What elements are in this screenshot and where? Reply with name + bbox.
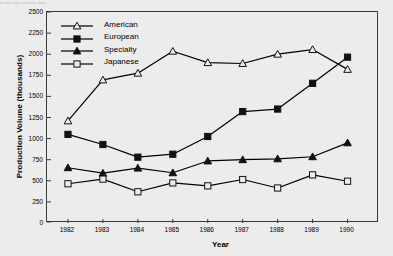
y-axis-tick: 0 (3, 219, 43, 226)
data-point (100, 141, 106, 147)
legend-label: American (94, 20, 138, 29)
y-axis-tick-labels: 02505007501000125015001750200022502500 (0, 11, 43, 222)
y-axis-tick: 1500 (3, 92, 43, 99)
data-point (275, 106, 281, 112)
series-line (68, 57, 348, 157)
x-axis-tick: 1990 (327, 226, 367, 233)
series-european (65, 54, 351, 160)
chart-figure: production volume data Production Volume… (0, 0, 393, 256)
data-point (135, 154, 141, 160)
y-axis-tick: 1250 (3, 113, 43, 120)
y-axis-tick: 250 (3, 197, 43, 204)
data-point (170, 151, 176, 157)
data-point (344, 54, 350, 60)
data-point (64, 164, 72, 171)
data-point (275, 185, 281, 191)
y-axis-tick: 2500 (3, 8, 43, 15)
data-point (65, 181, 71, 187)
legend-label: Japanese (94, 57, 139, 66)
x-axis-title: Year (0, 240, 393, 249)
legend: AmericanEuropeanSpecialtyJapanese (60, 18, 180, 68)
legend-item-european: European (60, 31, 180, 44)
data-point (134, 69, 142, 76)
data-point (134, 164, 142, 171)
legend-item-specialty: Specialty (60, 43, 180, 56)
legend-label: European (94, 32, 139, 41)
header-strip: production volume data (0, 0, 120, 5)
series-japanese (65, 172, 351, 195)
data-point (205, 183, 211, 189)
data-point (170, 180, 176, 186)
legend-symbol (60, 31, 94, 43)
data-point (240, 108, 246, 114)
legend-item-japanese: Japanese (60, 56, 180, 69)
legend-symbol (60, 43, 94, 55)
y-axis-tick: 1000 (3, 134, 43, 141)
legend-marker-icon (74, 61, 80, 67)
data-point (205, 133, 211, 139)
data-point (100, 176, 106, 182)
legend-symbol (60, 18, 94, 30)
data-point (309, 46, 317, 53)
y-axis-tick: 1750 (3, 71, 43, 78)
data-point (65, 131, 71, 137)
legend-symbol (60, 56, 94, 68)
legend-marker-icon (74, 36, 80, 42)
x-axis-tick-labels: 198219831984198519861987198819891990 (46, 226, 378, 238)
data-point (135, 189, 141, 195)
legend-label: Specialty (94, 45, 136, 54)
y-axis-tick: 500 (3, 176, 43, 183)
series-specialty (64, 139, 351, 176)
data-point (344, 66, 352, 73)
x-axis-title-text: Year (212, 240, 229, 249)
legend-item-american: American (60, 18, 180, 31)
data-point (344, 178, 350, 184)
data-point (240, 176, 246, 182)
y-axis-tick: 2250 (3, 29, 43, 36)
y-axis-tick: 2000 (3, 50, 43, 57)
data-point (310, 80, 316, 86)
data-point (344, 139, 352, 146)
y-axis-tick: 750 (3, 155, 43, 162)
data-point (310, 172, 316, 178)
